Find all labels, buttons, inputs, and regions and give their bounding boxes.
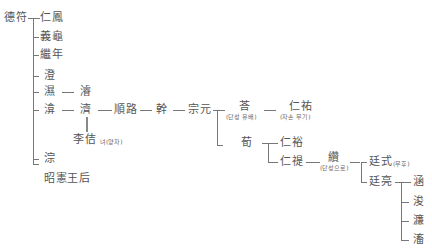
connector — [33, 37, 39, 38]
node-c5-1: 濬 — [80, 86, 92, 98]
node-g3: 濂 — [413, 215, 425, 227]
connector — [33, 164, 39, 165]
branch-line — [217, 110, 218, 146]
connector — [401, 240, 409, 241]
connector — [140, 110, 152, 111]
node-c6-4-b-2-1: 纘 — [328, 152, 340, 164]
connector — [264, 110, 276, 111]
connector — [28, 18, 40, 19]
connector — [395, 182, 411, 183]
connector — [213, 110, 225, 111]
connector — [361, 182, 367, 183]
node-g2: 浚 — [413, 196, 425, 208]
connector — [306, 162, 320, 163]
note-c6-1-a: 녀(양자) — [100, 138, 123, 145]
node-c6: 渰 — [44, 104, 56, 116]
node-g1: 涵 — [413, 176, 425, 188]
node-c6-4: 宗元 — [188, 104, 211, 116]
connector — [33, 55, 39, 56]
node-c6-4-b-2: 仁禔 — [280, 156, 303, 168]
node-c4: 澄 — [44, 70, 56, 82]
cropped-caption-fragment — [0, 0, 240, 3]
connector — [33, 159, 39, 160]
connector — [33, 110, 39, 111]
node-c6-1-a: 李佶 — [73, 134, 96, 146]
connector — [268, 143, 278, 144]
node-c3: 繼年 — [40, 49, 63, 61]
node-c6-4-b-2-1-b: 廷亮 — [369, 176, 392, 188]
node-c2: 義龜 — [40, 31, 63, 43]
node-c6-4-b-2-1-a: 廷式 — [369, 156, 392, 168]
node-c8: 昭憲王后 — [44, 173, 90, 185]
note-c6-4-b-2-1-a: (무후) — [393, 160, 410, 167]
note-c6-4-b-2-1: (단성으로) — [320, 164, 349, 171]
node-c6-4-b-1: 仁裕 — [280, 137, 303, 149]
node-c6-4-a: 荅 — [239, 101, 251, 113]
connector — [361, 162, 367, 163]
node-root: 德符 — [4, 12, 27, 24]
connector — [62, 110, 74, 111]
connector — [98, 110, 112, 111]
node-c6-1: 濟 — [80, 104, 92, 116]
note-c6-4-a: (단성 유배) — [226, 113, 257, 120]
node-c6-4-b: 荀 — [241, 137, 253, 149]
node-c6-2: 順路 — [114, 104, 137, 116]
branch-line — [401, 182, 402, 240]
connector — [350, 162, 360, 163]
node-g4: 滀 — [413, 234, 425, 246]
connector — [62, 92, 74, 93]
branch-line — [361, 162, 362, 182]
connector — [33, 92, 39, 93]
node-c6-3: 幹 — [156, 104, 168, 116]
connector — [173, 110, 185, 111]
branch-line — [268, 143, 269, 163]
node-c1: 仁鳳 — [40, 12, 63, 24]
node-c5: 濕 — [44, 86, 56, 98]
note-c6-4-a-1: (자손 무기) — [280, 113, 311, 120]
connector — [33, 76, 39, 77]
connector — [217, 145, 223, 146]
connector — [401, 202, 409, 203]
connector — [401, 221, 409, 222]
adoption-line — [86, 117, 88, 132]
connector — [268, 162, 278, 163]
node-c7: 淙 — [44, 153, 56, 165]
node-c6-4-a-1: 仁祐 — [289, 101, 312, 113]
